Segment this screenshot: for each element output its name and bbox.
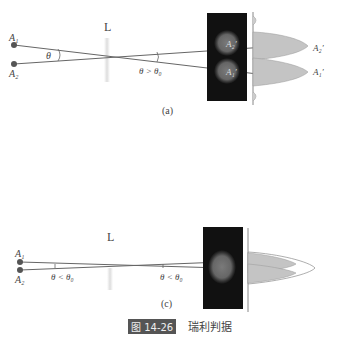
lens-c	[107, 268, 113, 290]
profile-label-a1: A₁′	[312, 67, 325, 77]
airy-disk-unresolved-c	[208, 250, 236, 284]
angle-arc-right-a	[157, 52, 159, 62]
source-dot-c1	[17, 259, 23, 265]
image-label-a1: A₁′	[225, 67, 238, 77]
intensity-peak-a2	[253, 32, 308, 60]
figure-caption: 图 14-26 瑞利判据	[128, 318, 232, 334]
angle-label-right-a: θ > θ₀	[139, 66, 162, 76]
source-label-a2: A₂	[8, 68, 19, 79]
panel-tag-c: (c)	[161, 298, 172, 310]
figure-number: 图 14-26	[128, 319, 176, 334]
lens-label: L	[104, 20, 111, 34]
source-label-c1: A₁	[14, 248, 25, 259]
source-dot-c2	[17, 267, 23, 273]
source-label-a1: A₁	[8, 32, 19, 43]
profile-label-a2: A₂′	[312, 43, 325, 53]
figure-title: 瑞利判据	[188, 318, 232, 334]
rayleigh-criterion-diagram: L A₁ A₂ θ θ > θ₀ A₂′ A₁′ A₂′ A₁′ (a) L A…	[0, 0, 338, 337]
lens-a	[104, 38, 110, 82]
angle-label-left-c: θ < θ₀	[51, 272, 74, 282]
angle-label-left-a: θ	[46, 50, 51, 61]
angle-label-right-c: θ < θ₀	[160, 272, 183, 282]
intensity-peak-a1	[253, 58, 308, 86]
source-label-c2: A₂	[14, 274, 25, 285]
panel-c: L A₁ A₂ θ < θ₀ θ < θ₀ (c)	[14, 227, 315, 312]
panel-a: L A₁ A₂ θ θ > θ₀ A₂′ A₁′ A₂′ A₁′ (a)	[8, 12, 325, 117]
screen-a	[207, 13, 247, 101]
image-label-a2: A₂′	[225, 39, 238, 49]
panel-tag-a: (a)	[162, 105, 173, 117]
lens-label-c: L	[107, 230, 114, 244]
source-dot-a2	[11, 61, 17, 67]
